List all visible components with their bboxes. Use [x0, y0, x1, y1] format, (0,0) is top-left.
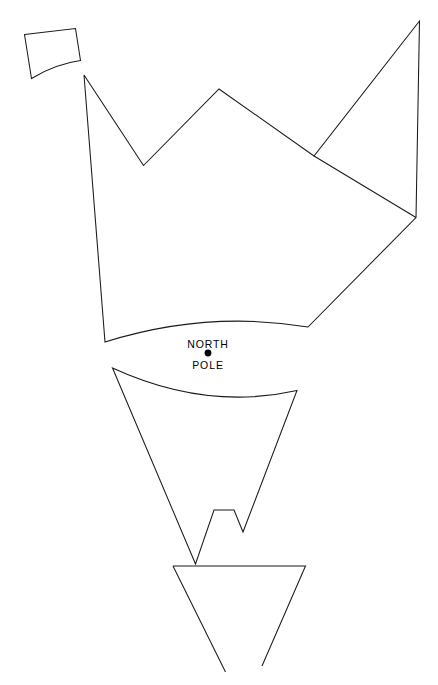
north-pole-dot: [205, 350, 212, 357]
north-label: NORTH: [187, 338, 229, 350]
figure-root: NORTH POLE: [0, 0, 438, 685]
map-outline-svg: NORTH POLE: [0, 0, 438, 685]
pole-label: POLE: [192, 359, 224, 371]
